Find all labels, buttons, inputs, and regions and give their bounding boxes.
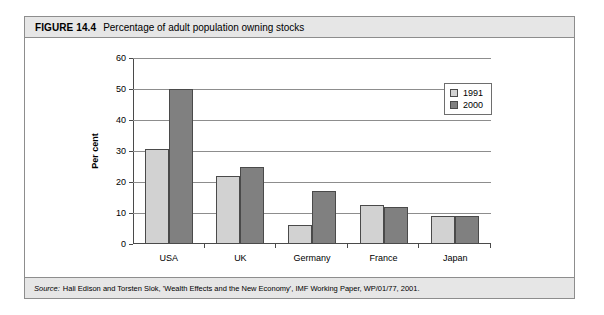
legend-item-2000[interactable]: 2000 (450, 99, 483, 111)
legend-label-1991: 1991 (463, 88, 483, 98)
chart-area: Per cent 0102030405060 USAUKGermanyFranc… (25, 38, 574, 277)
y-axis-tick-label: 30 (116, 146, 126, 156)
bar-group-bars (133, 58, 205, 244)
bar-usa-1991[interactable] (145, 149, 169, 244)
legend-item-1991[interactable]: 1991 (450, 87, 483, 99)
x-axis-label-usa: USA (133, 253, 205, 263)
bar-group: UK (205, 58, 277, 244)
bar-germany-1991[interactable] (288, 225, 312, 244)
y-axis-tick-label: 10 (116, 208, 126, 218)
x-axis-tick-mark (418, 244, 419, 248)
x-axis-label-france: France (348, 253, 420, 263)
y-axis-title: Per cent (90, 133, 100, 169)
y-axis-tick-mark (129, 244, 133, 245)
x-axis-label-germany: Germany (276, 253, 348, 263)
x-axis-label-uk: UK (205, 253, 277, 263)
legend-swatch-2000 (450, 101, 458, 109)
bar-france-1991[interactable] (360, 205, 384, 244)
x-axis-tick-mark (275, 244, 276, 248)
bar-group: USA (133, 58, 205, 244)
bar-group-bars (348, 58, 420, 244)
x-axis-label-japan: Japan (419, 253, 491, 263)
plot-region: Per cent 0102030405060 USAUKGermanyFranc… (133, 58, 491, 244)
bar-uk-2000[interactable] (240, 167, 264, 245)
bar-group: Germany (276, 58, 348, 244)
x-axis-tick-mark (347, 244, 348, 248)
figure-title-text: Percentage of adult population owning st… (103, 22, 304, 33)
legend-label-2000: 2000 (463, 100, 483, 110)
y-axis-tick-label: 50 (116, 84, 126, 94)
chart-legend: 19912000 (444, 83, 492, 115)
figure-source-bar: Source: Hali Edison and Torsten Slok, 'W… (25, 277, 574, 298)
bar-group-bars (276, 58, 348, 244)
figure-number-label: FIGURE 14.4 (35, 22, 96, 33)
x-axis-tick-mark (204, 244, 205, 248)
legend-swatch-1991 (450, 89, 458, 97)
figure-container: FIGURE 14.4 Percentage of adult populati… (24, 16, 575, 299)
y-axis-tick-label: 0 (121, 239, 126, 249)
figure-title-bar: FIGURE 14.4 Percentage of adult populati… (25, 17, 574, 38)
y-axis-tick-label: 20 (116, 177, 126, 187)
bar-japan-2000[interactable] (455, 216, 479, 244)
source-label: Source: (34, 284, 60, 293)
y-axis-tick-label: 40 (116, 115, 126, 125)
bar-usa-2000[interactable] (169, 89, 193, 244)
source-text: Hali Edison and Torsten Slok, 'Wealth Ef… (63, 284, 420, 293)
y-axis-tick-label: 60 (116, 53, 126, 63)
bar-group: France (348, 58, 420, 244)
bar-france-2000[interactable] (384, 207, 408, 244)
x-axis-tick-mark (490, 244, 491, 248)
bar-germany-2000[interactable] (312, 191, 336, 244)
bar-group-bars (205, 58, 277, 244)
bar-uk-1991[interactable] (216, 176, 240, 244)
bar-japan-1991[interactable] (431, 216, 455, 244)
